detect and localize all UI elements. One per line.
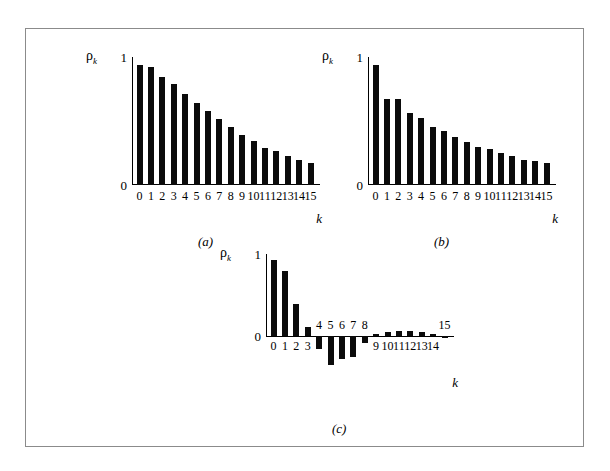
bar: [137, 65, 143, 185]
bar-slot: 12: [508, 57, 519, 185]
bar-slot: 5: [326, 254, 337, 382]
x-tick-label: 15: [434, 319, 456, 331]
bar: [373, 334, 379, 336]
bar-slot: 1: [146, 57, 157, 185]
panel-b: ρk 1 0 0123456789101112131415 k (b): [326, 47, 576, 252]
y-axis-subscript-b: k: [329, 56, 333, 66]
bar: [273, 151, 279, 185]
bar: [407, 113, 413, 185]
bar: [239, 135, 245, 185]
bar-slot: 15: [440, 254, 451, 382]
bar: [384, 99, 390, 185]
bar-slot: 0: [135, 57, 146, 185]
y-axis-symbol-b: ρ: [322, 48, 329, 63]
bar: [544, 163, 550, 185]
bar: [464, 142, 470, 185]
bar: [228, 127, 234, 185]
bar: [487, 149, 493, 185]
bar-slot: 13: [417, 254, 428, 382]
bar-slot: 2: [394, 57, 405, 185]
x-tick-label: 15: [300, 190, 322, 202]
bar: [296, 160, 302, 185]
y-axis-subscript-c: k: [227, 253, 231, 263]
bar: [521, 160, 527, 185]
bar: [396, 331, 402, 336]
bar-slot: 12: [272, 57, 283, 185]
y-axis-label-b: ρk: [322, 49, 333, 66]
panel-c: ρk 1 0 0123456789101112131415 k (c): [206, 244, 486, 444]
figure-frame: ρk 1 0 0123456789101112131415 k (a) ρk 1…: [25, 28, 584, 447]
bar-slot: 4: [315, 254, 326, 382]
bar-slot: 4: [181, 57, 192, 185]
y-axis-line-b: [368, 57, 369, 185]
bar: [216, 119, 222, 185]
bar: [373, 65, 379, 185]
plot-area-b: ρk 1 0 0123456789101112131415 k: [368, 57, 550, 185]
y-tick-one-c: 1: [255, 248, 262, 261]
y-tick-one-b: 1: [357, 51, 364, 64]
bar-slot: 1: [382, 57, 393, 185]
y-tick-zero-c: 0: [255, 330, 262, 343]
bar: [282, 271, 288, 336]
x-axis-label-a: k: [316, 212, 322, 225]
bar-slot: 6: [203, 57, 214, 185]
bar: [182, 94, 188, 185]
panel-caption-c: (c): [332, 422, 346, 435]
bar-slot: 4: [417, 57, 428, 185]
y-tick-zero-b: 0: [357, 179, 364, 192]
bar: [285, 156, 291, 185]
y-tick-zero-a: 0: [121, 179, 128, 192]
y-axis-line-c: [266, 254, 267, 336]
bar-slot: 13: [283, 57, 294, 185]
bar-slot: 1: [280, 254, 291, 382]
bar: [442, 336, 448, 338]
bar-slot: 7: [451, 57, 462, 185]
bar: [452, 137, 458, 185]
bar-slot: 8: [226, 57, 237, 185]
bar-slot: 11: [496, 57, 507, 185]
bar: [407, 331, 413, 336]
bar: [509, 156, 515, 185]
bar-slot: 5: [192, 57, 203, 185]
bar-slot: 8: [462, 57, 473, 185]
bar-slot: 9: [372, 254, 383, 382]
bar-slot: 3: [405, 57, 416, 185]
bar: [430, 127, 436, 185]
bar-slot: 15: [542, 57, 553, 185]
bar: [262, 148, 268, 185]
bar: [316, 336, 322, 349]
bar-slot: 6: [337, 254, 348, 382]
bar: [328, 336, 334, 365]
bar-slot: 14: [295, 57, 306, 185]
bar: [350, 336, 356, 357]
bar-slot: 12: [406, 254, 417, 382]
bar: [308, 163, 314, 185]
bar-slot: 9: [474, 57, 485, 185]
y-axis-line-a: [132, 57, 133, 185]
bar-slot: 14: [531, 57, 542, 185]
y-axis-symbol-a: ρ: [86, 48, 93, 63]
bar-slot: 0: [371, 57, 382, 185]
bar-slot: 11: [394, 254, 405, 382]
bar: [441, 131, 447, 185]
bar: [293, 304, 299, 336]
bar-series-c: 0123456789101112131415: [269, 254, 448, 382]
plot-area-a: ρk 1 0 0123456789101112131415 k: [132, 57, 314, 185]
bar: [385, 332, 391, 336]
y-axis-subscript-a: k: [93, 56, 97, 66]
bar-slot: 11: [260, 57, 271, 185]
bar-slot: 10: [485, 57, 496, 185]
bar: [339, 336, 345, 359]
bar-slot: 14: [429, 254, 440, 382]
bar: [498, 153, 504, 185]
bar-slot: 7: [349, 254, 360, 382]
bar-series-b: 0123456789101112131415: [371, 57, 550, 185]
bar-slot: 3: [169, 57, 180, 185]
bar: [148, 67, 154, 185]
bar: [171, 84, 177, 185]
bar-slot: 2: [292, 254, 303, 382]
bar-slot: 5: [428, 57, 439, 185]
panel-a: ρk 1 0 0123456789101112131415 k (a): [90, 47, 340, 252]
bar-slot: 2: [158, 57, 169, 185]
bar: [395, 99, 401, 185]
